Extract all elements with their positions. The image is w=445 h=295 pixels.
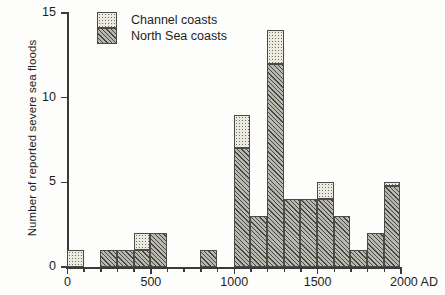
- dotted-swatch-icon: [97, 12, 117, 28]
- bar-segment-channel-1900-2000: [384, 182, 401, 185]
- bar-1600-1700: [334, 13, 351, 267]
- bar-segment-north-sea-1900-2000: [384, 186, 401, 267]
- bar-segment-north-sea-1100-1200: [250, 216, 267, 267]
- bar-segment-channel-1200-1300: [267, 30, 284, 64]
- bar-segment-north-sea-1800-1900: [367, 233, 384, 267]
- x-tick-label-1500: 1500: [283, 275, 353, 289]
- bar-segment-channel-1500-1600: [317, 182, 334, 199]
- x-tick-700: [183, 268, 185, 272]
- bar-segment-north-sea-800-900: [200, 250, 217, 267]
- x-tick-1800: [367, 268, 369, 272]
- bar-segment-north-sea-1200-1300: [267, 64, 284, 267]
- x-tick-0: [67, 268, 69, 274]
- y-tick-label-0: 0: [30, 259, 56, 273]
- bar-segment-north-sea-200-300: [100, 250, 117, 267]
- legend-label-north-sea-coasts: North Sea coasts: [131, 28, 227, 44]
- bar-200-300: [100, 13, 117, 267]
- bar-400-500: [134, 13, 151, 267]
- bar-segment-north-sea-1600-1700: [334, 216, 351, 267]
- bar-1400-1500: [300, 13, 317, 267]
- x-tick-200: [100, 268, 102, 272]
- bar-1100-1200: [250, 13, 267, 267]
- bar-500-600: [150, 13, 167, 267]
- bar-segment-north-sea-1300-1400: [284, 199, 301, 267]
- x-tick-1500: [317, 268, 319, 274]
- x-tick-label-0: 0: [33, 275, 103, 289]
- x-tick-1300: [284, 268, 286, 272]
- x-tick-800: [200, 268, 202, 272]
- bar-segment-north-sea-1500-1600: [317, 199, 334, 267]
- bar-segment-north-sea-500-600: [150, 233, 167, 267]
- x-tick-400: [133, 268, 135, 272]
- x-tick-100: [83, 268, 85, 272]
- bar-1000-1100: [234, 13, 251, 267]
- x-tick-900: [217, 268, 219, 272]
- y-axis-label: Number of reported severe sea floods: [26, 13, 38, 263]
- y-tick-label-5: 5: [30, 174, 56, 188]
- x-tick-300: [117, 268, 119, 272]
- x-tick-500: [150, 268, 152, 274]
- bar-segment-channel-1000-1100: [234, 115, 251, 149]
- y-tick-label-10: 10: [30, 90, 56, 104]
- x-tick-600: [167, 268, 169, 272]
- bar-1800-1900: [367, 13, 384, 267]
- bar-segment-north-sea-300-400: [117, 250, 134, 267]
- x-tick-2000: [400, 268, 402, 274]
- bar-segment-channel-0-100: [67, 250, 84, 267]
- bar-1900-2000: [384, 13, 401, 267]
- bar-300-400: [117, 13, 134, 267]
- x-tick-label-1000: 1000: [199, 275, 269, 289]
- x-tick-1600: [334, 268, 336, 272]
- x-tick-label-500: 500: [116, 275, 186, 289]
- x-tick-1100: [250, 268, 252, 272]
- bar-1500-1600: [317, 13, 334, 267]
- x-tick-1400: [300, 268, 302, 272]
- bar-1300-1400: [284, 13, 301, 267]
- bar-800-900: [200, 13, 217, 267]
- x-tick-label-2000: 2000 AD: [379, 275, 445, 289]
- plot-area: [67, 13, 401, 267]
- hatch-swatch-icon: [97, 28, 117, 44]
- legend-label-channel-coasts: Channel coasts: [131, 12, 217, 28]
- bar-0-100: [67, 13, 84, 267]
- bar-segment-channel-400-500: [134, 233, 151, 250]
- x-tick-1000: [234, 268, 236, 274]
- bar-segment-north-sea-1400-1500: [300, 199, 317, 267]
- bar-segment-north-sea-1000-1100: [234, 148, 251, 267]
- x-tick-1900: [384, 268, 386, 272]
- y-tick-label-15: 15: [30, 5, 56, 19]
- histogram-chart: Number of reported severe sea floods 051…: [0, 0, 445, 295]
- bar-1700-1800: [350, 13, 367, 267]
- bar-segment-north-sea-1700-1800: [350, 250, 367, 267]
- bar-1200-1300: [267, 13, 284, 267]
- bar-segment-north-sea-400-500: [134, 250, 151, 267]
- x-tick-1200: [267, 268, 269, 272]
- x-tick-1700: [350, 268, 352, 272]
